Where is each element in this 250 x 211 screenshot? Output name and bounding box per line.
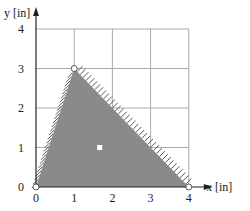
hatch-stroke xyxy=(107,97,112,102)
y-axis-arrow-icon xyxy=(33,7,39,16)
hatch-stroke xyxy=(86,75,91,80)
hatch-stroke xyxy=(162,154,167,159)
hatch-stroke xyxy=(133,124,138,129)
hatch-stroke xyxy=(83,72,88,77)
hatch-stroke xyxy=(130,121,135,126)
triangle-region-diagram: 01234 01234 x [in] y [in] xyxy=(0,0,250,211)
hatch-stroke xyxy=(165,157,170,162)
hatch-stroke xyxy=(180,172,185,177)
y-tick-label: 2 xyxy=(18,101,24,115)
vertex-top-marker xyxy=(71,66,77,72)
y-tick-labels: 01234 xyxy=(18,22,24,194)
vertex-right-marker xyxy=(186,184,192,190)
centroid-marker xyxy=(97,145,102,150)
hatch-stroke xyxy=(171,163,176,168)
hatch-stroke xyxy=(168,160,173,165)
x-axis-label: x [in] xyxy=(206,180,232,194)
hatch-stroke xyxy=(151,142,156,147)
hatch-stroke xyxy=(124,115,129,120)
x-tick-label: 1 xyxy=(71,191,77,205)
x-tick-label: 3 xyxy=(148,191,154,205)
hatch-stroke xyxy=(183,176,188,181)
y-tick-label: 0 xyxy=(18,180,24,194)
hatch-stroke xyxy=(95,84,100,89)
vertex-origin-marker xyxy=(33,184,39,190)
hatch-stroke xyxy=(89,78,94,83)
hatch-stroke xyxy=(127,118,132,123)
hatch-stroke xyxy=(145,136,150,141)
hatch-stroke xyxy=(136,127,141,132)
hatch-stroke xyxy=(177,169,182,174)
y-tick-label: 1 xyxy=(18,141,24,155)
hatch-stroke xyxy=(104,93,109,98)
hatch-stroke xyxy=(80,69,85,74)
y-tick-label: 4 xyxy=(18,22,24,36)
x-tick-label: 2 xyxy=(109,191,115,205)
hatch-stroke xyxy=(92,81,97,86)
hatch-stroke xyxy=(174,166,179,171)
hatch-stroke xyxy=(159,151,164,156)
y-axis-label: y [in] xyxy=(4,6,30,20)
hatch-stroke xyxy=(139,130,144,135)
hatch-stroke xyxy=(98,87,103,92)
hatch-stroke xyxy=(156,148,161,153)
hatch-stroke xyxy=(142,133,147,138)
hatch-stroke xyxy=(118,109,123,114)
x-tick-label: 0 xyxy=(33,191,39,205)
hatch-stroke xyxy=(121,112,126,117)
hatch-stroke xyxy=(112,103,117,108)
x-tick-label: 4 xyxy=(186,191,192,205)
x-tick-labels: 01234 xyxy=(33,191,192,205)
y-tick-label: 3 xyxy=(18,62,24,76)
hatch-stroke xyxy=(101,90,106,95)
